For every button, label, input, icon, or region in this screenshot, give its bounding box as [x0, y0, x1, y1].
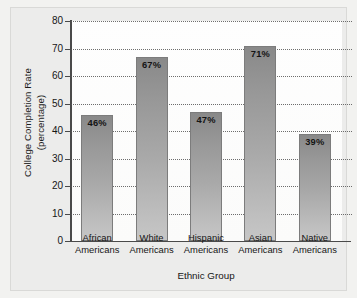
- y-axis-tick-label: 60: [39, 70, 63, 81]
- bar: 71%: [244, 46, 276, 241]
- bar-value-label: 67%: [137, 60, 167, 70]
- y-axis-tick-label: 50: [39, 98, 63, 109]
- category-label-line-1: Native: [278, 232, 352, 244]
- y-axis-tick: [65, 159, 70, 160]
- gridline: [71, 21, 352, 22]
- y-axis-tick: [65, 131, 70, 132]
- gridline: [71, 104, 352, 105]
- y-axis-tick-label: 40: [39, 125, 63, 136]
- y-axis-tick: [65, 49, 70, 50]
- chart-figure: College Completion Rate (percentage) 010…: [10, 7, 347, 291]
- bar: 46%: [81, 115, 113, 242]
- y-axis-tick-label: 70: [39, 43, 63, 54]
- y-axis-tick: [65, 104, 70, 105]
- y-axis-tick-label: 10: [39, 208, 63, 219]
- y-axis-tick: [65, 21, 70, 22]
- y-axis-tick-label: 30: [39, 153, 63, 164]
- x-axis-title: Ethnic Group: [70, 270, 342, 281]
- y-axis-tick-label: 20: [39, 180, 63, 191]
- bar-value-label: 39%: [300, 137, 330, 147]
- y-axis-tick: [65, 214, 70, 215]
- bar-value-label: 46%: [82, 118, 112, 128]
- y-axis-title-line-1: College Completion Rate: [22, 28, 35, 218]
- y-axis-tick: [65, 76, 70, 77]
- bar: 47%: [190, 112, 222, 241]
- gridline: [71, 76, 352, 77]
- bar-value-label: 71%: [245, 49, 275, 59]
- y-axis-tick-label: 80: [39, 15, 63, 26]
- gridline: [71, 49, 352, 50]
- x-axis-category-label: NativeAmericans: [278, 232, 352, 257]
- category-label-line-2: Americans: [278, 244, 352, 256]
- bar: 67%: [136, 57, 168, 241]
- bar-value-label: 47%: [191, 115, 221, 125]
- y-axis-tick: [65, 186, 70, 187]
- bar: 39%: [299, 134, 331, 241]
- plot-area: 01020304050607080 46%67%47%71%39%: [70, 21, 342, 241]
